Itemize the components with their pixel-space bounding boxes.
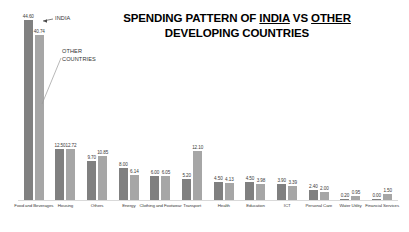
bar-group: 9.7010.85	[81, 14, 113, 200]
bar-group: 3.903.39	[271, 14, 303, 200]
bar-india: 5.20	[182, 179, 191, 200]
bar-value-label: 0.00	[372, 193, 381, 198]
bar-india: 9.70	[87, 161, 96, 200]
bar-group: 6.006.05	[145, 14, 177, 200]
bar-pair: 6.006.05	[145, 14, 177, 200]
bar-value-label: 0.95	[352, 190, 361, 195]
annotation-india: INDIA	[55, 15, 70, 21]
bar-value-label: 2.40	[309, 184, 318, 189]
bar-india: 2.40	[309, 190, 318, 200]
bar-group: 44.6040.74	[18, 14, 50, 200]
bar-value-label: 1.50	[383, 188, 392, 193]
bar-value-label: 6.00	[151, 170, 160, 175]
bar-india: 4.50	[214, 182, 223, 200]
bar-pair: 5.2012.10	[176, 14, 208, 200]
x-axis-line	[18, 200, 398, 201]
bar-group: 12.5012.72	[50, 14, 82, 200]
bar-value-label: 6.05	[162, 170, 171, 175]
bar-other-countries: 6.14	[130, 175, 139, 200]
bar-pair: 9.7010.85	[81, 14, 113, 200]
bar-pair: 0.001.50	[366, 14, 398, 200]
bar-other-countries: 6.05	[161, 176, 170, 200]
bar-group: 4.504.13	[208, 14, 240, 200]
bar-pair: 12.5012.72	[50, 14, 82, 200]
bar-india: 3.90	[277, 184, 286, 200]
bar-other-countries: 2.00	[320, 192, 329, 200]
bar-value-label: 4.13	[225, 177, 234, 182]
bar-value-label: 5.20	[182, 173, 191, 178]
bar-india: 4.50	[245, 182, 254, 200]
bar-other-countries: 10.85	[98, 156, 107, 200]
category-axis-labels: Food and BeveragesHousingOthersEnergyClo…	[18, 203, 398, 229]
plot-area: 44.6040.7412.5012.729.7010.858.006.146.0…	[18, 14, 398, 200]
bar-other-countries: 12.10	[193, 151, 202, 200]
bar-value-label: 4.50	[214, 176, 223, 181]
bar-other-countries: 12.72	[66, 149, 75, 200]
bar-value-label: 6.14	[130, 169, 139, 174]
bar-india: 8.00	[119, 168, 128, 200]
bar-pair: 4.504.13	[208, 14, 240, 200]
bar-other-countries: 3.39	[288, 186, 297, 200]
bar-group: 2.402.00	[303, 14, 335, 200]
bar-group: 4.503.98	[240, 14, 272, 200]
bar-group: 8.006.14	[113, 14, 145, 200]
annotation-other-line2: COUNTRIES	[62, 56, 96, 62]
bar-india: 44.60	[24, 20, 33, 200]
bar-other-countries: 4.13	[225, 183, 234, 200]
bar-pair: 4.503.98	[240, 14, 272, 200]
bar-chart: SPENDING PATTERN OF INDIA VS OTHER DEVEL…	[0, 0, 409, 232]
bar-value-label: 10.85	[97, 150, 108, 155]
bar-value-label: 12.50	[54, 143, 65, 148]
bar-pair: 3.903.39	[271, 14, 303, 200]
bar-group: 0.001.50	[366, 14, 398, 200]
bar-pair: 0.200.95	[335, 14, 367, 200]
bar-pair: 44.6040.74	[18, 14, 50, 200]
annotation-other-line1: OTHER	[62, 48, 82, 54]
category-label: Financial Services	[358, 203, 406, 208]
bar-value-label: 40.74	[34, 29, 45, 34]
bar-india: 12.50	[55, 149, 64, 200]
bar-other-countries: 40.74	[35, 35, 44, 200]
bar-pair: 8.006.14	[113, 14, 145, 200]
bar-other-countries: 3.98	[256, 184, 265, 200]
bar-value-label: 9.70	[87, 155, 96, 160]
bar-pair: 2.402.00	[303, 14, 335, 200]
bar-value-label: 3.98	[257, 178, 266, 183]
bar-india: 6.00	[150, 176, 159, 200]
bar-group: 0.200.95	[335, 14, 367, 200]
bar-value-label: 3.90	[277, 178, 286, 183]
bar-value-label: 2.00	[320, 186, 329, 191]
bar-value-label: 3.39	[288, 180, 297, 185]
bar-value-label: 44.60	[23, 14, 34, 19]
bar-value-label: 0.20	[341, 193, 350, 198]
bar-value-label: 12.72	[65, 143, 76, 148]
bar-group: 5.2012.10	[176, 14, 208, 200]
bar-value-label: 8.00	[119, 162, 128, 167]
bar-value-label: 12.10	[192, 145, 203, 150]
bar-value-label: 4.50	[246, 176, 255, 181]
annotation-other-countries: OTHER COUNTRIES	[62, 48, 96, 63]
